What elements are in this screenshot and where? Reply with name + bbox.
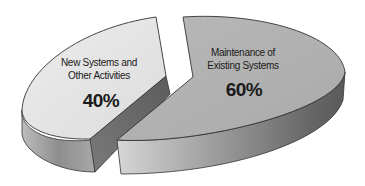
slice-maintenance-value: 60% bbox=[226, 79, 263, 100]
slice-new-systems-label-line2: Other Activities bbox=[68, 70, 130, 81]
slice-maintenance-label-line1: Maintenance of bbox=[211, 47, 276, 58]
slice-new-systems-value: 40% bbox=[83, 90, 120, 111]
pie-chart: New Systems and Other Activities 40% Mai… bbox=[0, 0, 365, 186]
slice-maintenance-label-line2: Existing Systems bbox=[207, 60, 279, 71]
slice-new-systems-label-line1: New Systems and bbox=[61, 57, 137, 68]
